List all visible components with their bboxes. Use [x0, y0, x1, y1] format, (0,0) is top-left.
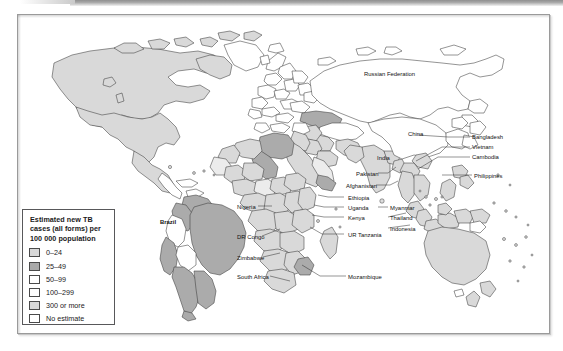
map-legend: Estimated new TB cases (all forms) per 1…	[22, 209, 115, 325]
map-label-pakistan: Pakistan	[356, 171, 379, 177]
legend-item-label: 300 or more	[46, 301, 85, 310]
legend-item: 300 or more	[29, 299, 110, 312]
map-label-philippines: Philippines	[474, 173, 503, 179]
map-label-kenya: Kenya	[348, 215, 365, 221]
region-south-america	[160, 195, 246, 321]
map-label-ur-tanzania: UR Tanzania	[348, 232, 382, 238]
legend-item-label: No estimate	[46, 314, 84, 323]
legend-swatch	[29, 314, 40, 323]
legend-item: 0–24	[29, 246, 110, 259]
map-label-uganda: Uganda	[348, 205, 369, 211]
map-label-afghanistan: Afghanistan	[346, 183, 377, 189]
map-label-dr-congo: DR Congo	[237, 234, 265, 240]
map-label-thailand: Thailand	[390, 215, 413, 221]
legend-title-line-2: cases (all forms) per	[30, 224, 110, 233]
map-label-nigeria: Nigeria	[237, 204, 256, 210]
legend-item-label: 0–24	[46, 248, 62, 257]
legend-items: 0–2425–4950–99100–299300 or moreNo estim…	[29, 246, 110, 325]
legend-swatch	[29, 262, 40, 271]
legend-title-line-3: 100 000 population	[30, 234, 110, 243]
map-label-vietnam: Vietnam	[472, 144, 494, 150]
map-label-mozambique: Mozambique	[348, 274, 382, 280]
map-label-brazil: Brazil	[160, 219, 176, 225]
legend-item-label: 25–49	[46, 262, 66, 271]
figure-page: .c { stroke:#3d3d3d; stroke-width:.55; s…	[0, 0, 563, 351]
map-label-cambodia: Cambodia	[472, 154, 499, 160]
legend-swatch	[29, 288, 40, 297]
map-label-south-africa: South Africa	[237, 274, 269, 280]
map-frame: .c { stroke:#3d3d3d; stroke-width:.55; s…	[17, 14, 550, 334]
map-label-bangladesh: Bangladesh	[472, 134, 503, 140]
map-label-russian-federation: Russian Federation	[364, 71, 415, 77]
legend-item: 100–299	[29, 286, 110, 299]
map-label-china: China	[408, 131, 423, 137]
map-label-zimbabwe: Zimbabwe	[237, 255, 264, 261]
legend-item: 25–49	[29, 259, 110, 272]
legend-title-line-1: Estimated new TB	[30, 215, 110, 224]
map-label-ethiopia: Ethiopia	[348, 195, 369, 201]
scan-edge-band	[70, 0, 563, 6]
map-label-india: India	[377, 155, 390, 161]
legend-swatch	[29, 248, 40, 257]
region-russia	[310, 45, 504, 127]
legend-item-label: 100–299	[46, 288, 74, 297]
legend-title: Estimated new TB cases (all forms) per 1…	[30, 215, 110, 243]
scan-edge-band-left	[20, 0, 75, 4]
map-label-indonesia: Indonesia	[390, 226, 416, 232]
legend-swatch	[29, 301, 40, 310]
legend-swatch	[29, 275, 40, 284]
legend-item-label: 50–99	[46, 275, 66, 284]
legend-item: 50–99	[29, 273, 110, 286]
region-central-america	[158, 165, 215, 199]
map-label-myanmar: Myanmar	[390, 205, 415, 211]
legend-item: No estimate	[29, 312, 110, 325]
